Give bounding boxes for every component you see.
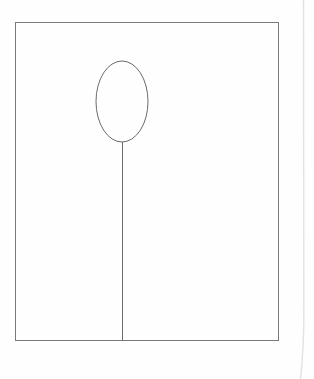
page-edge-artifact: [301, 0, 304, 379]
line-drawing-figure: [0, 0, 314, 379]
figure-svg: [0, 0, 314, 379]
frame-rectangle: [16, 23, 279, 341]
balloon-ellipse: [96, 61, 148, 142]
scanned-page: [0, 0, 314, 379]
